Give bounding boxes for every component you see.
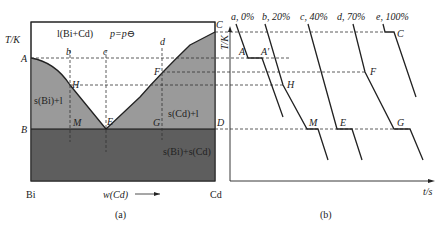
point-F-b-label: F [369,66,377,77]
point-A-b-label: A [238,46,246,57]
point-A-prime-label: A′ [260,46,270,57]
solid-region-label: s(Bi)+s(Cd) [163,146,211,158]
pressure-label: p=p⊖ [109,28,135,39]
curve-e-label: e, 100% [376,11,409,22]
curve-b-label: b, 20% [262,11,290,22]
point-M-b-label: M [308,117,318,128]
panel-b-cooling-curves: T/K t/s a, 0% b, 20% c, 40% d, 70% e, 10… [219,11,435,221]
point-b-label: b [66,46,71,57]
y-axis-label-b: T/K [219,34,230,50]
cooling-curve-a [236,24,283,117]
point-E-b-label: E [339,117,346,128]
panel-a-phase-diagram: T/K l(Bi+Cd) p=p⊖ A b c d H F C s(Bi)+l … [5,19,410,221]
point-G-b-label: G [397,117,404,128]
caption-b: (b) [320,209,332,221]
component-bi-label: Bi [26,189,36,200]
point-H-b-label: H [286,79,295,90]
caption-a: (a) [115,209,126,221]
curve-c-label: c, 40% [300,11,328,22]
x-axis-label-b: t/s [423,186,433,197]
point-A-label: A [20,53,28,64]
bi-liquid-label: s(Bi)+l [34,95,63,107]
point-D-label: D [216,117,225,128]
cd-liquid-label: s(Cd)+l [168,108,199,120]
point-c-label: c [103,46,108,57]
point-E-label: E [106,116,113,127]
cooling-curve-d [353,24,423,160]
curve-d-label: d, 70% [337,11,365,22]
liquid-region-label: l(Bi+Cd) [57,28,93,40]
point-C-b-label: C [397,28,404,39]
y-axis-label-a: T/K [5,34,21,45]
x-axis-arrow-icon [428,179,435,183]
point-B-label: B [21,124,27,135]
phase-diagram-figure: T/K l(Bi+Cd) p=p⊖ A b c d H F C s(Bi)+l … [0,0,447,236]
point-H-label: H [71,79,80,90]
x-axis-label-a: w(Cd) [103,189,129,201]
arrow-head-icon [154,192,160,196]
component-cd-label: Cd [210,189,222,200]
point-F-label: F [153,66,161,77]
point-C-label: C [216,19,223,30]
cooling-curve-c [308,24,362,160]
point-M-label: M [72,117,82,128]
curve-a-label: a, 0% [231,11,254,22]
y-axis-arrow-icon [228,26,232,32]
point-G-label: G [153,117,160,128]
